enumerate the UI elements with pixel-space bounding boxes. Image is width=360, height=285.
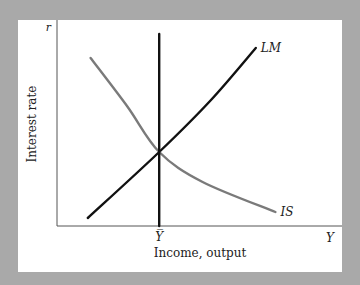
islm-chart: r Y Interest rate Income, output Y̅ LMIS	[0, 0, 360, 285]
series-lm	[88, 48, 256, 218]
y-axis-symbol: r	[46, 21, 52, 34]
x-axis-symbol: Y	[326, 231, 335, 245]
curve-label-is: IS	[279, 205, 293, 219]
curve-label-lm: LM	[260, 41, 282, 55]
x-tick-label-ybar: Y̅	[155, 229, 164, 244]
y-axis-label: Interest rate	[25, 86, 39, 163]
x-axis-label: Income, output	[154, 246, 247, 260]
